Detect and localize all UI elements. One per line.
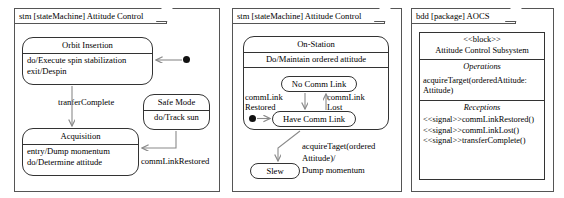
receptions-label: Receptions: [420, 103, 544, 114]
operation-item-cont: Attitude): [420, 86, 544, 97]
state-no-comm-link-name: No Comm Link: [292, 79, 346, 90]
frame-header-stm-right: stm [stateMachine] Attitude Control: [233, 9, 385, 24]
state-orbit-insertion-exit: exit/Despin: [27, 66, 148, 77]
state-safe-mode[interactable]: Safe Mode do/Track sun: [143, 94, 210, 130]
block-name: Attitude Control Subsystem: [420, 46, 544, 57]
operations-label: Operations: [420, 62, 544, 73]
frame-header-bdd: bdd [package] AOCS: [412, 9, 516, 24]
block-name-compartment: <<block>> Attitude Control Subsystem: [420, 33, 544, 60]
block-receptions-compartment: Receptions <<signal>>commLinkRestored() …: [420, 101, 544, 150]
state-orbit-insertion-do: do/Execute spin stabilization: [27, 55, 148, 66]
initial-node-left: [183, 56, 190, 63]
transition-label-comm-link-lost-2: Lost: [327, 102, 342, 113]
transition-label-acquire-target-2: Attitude)/: [302, 153, 335, 164]
state-orbit-insertion[interactable]: Orbit Insertion do/Execute spin stabiliz…: [22, 37, 153, 85]
block-operations-compartment: Operations acquireTarget(orderedAttitude…: [420, 60, 544, 101]
reception-item: <<signal>>commLinkRestored(): [420, 115, 544, 126]
state-acquisition-entry: entry/Dump momentum: [27, 146, 134, 157]
block-stereotype: <<block>>: [420, 35, 544, 46]
reception-item: <<signal>>commLinkLost(): [420, 126, 544, 137]
transition-label-comm-link-restored-1: commLink: [245, 92, 283, 103]
transition-label-transfer-complete: tranferComplete: [58, 97, 114, 108]
reception-item: <<signal>>transferComplete(): [420, 136, 544, 147]
state-acquisition-do: do/Determine attitude: [27, 157, 134, 168]
frame-header-stm-left: stm [stateMachine] Attitude Control: [15, 9, 167, 24]
state-safe-mode-body: do/Track sun: [144, 111, 209, 125]
state-have-comm-link-name: Have Comm Link: [283, 114, 345, 125]
transition-label-acquire-target-1: acquireTaget(ordered: [302, 141, 375, 152]
state-acquisition[interactable]: Acquisition entry/Dump momentum do/Deter…: [22, 128, 139, 176]
state-have-comm-link[interactable]: Have Comm Link: [272, 111, 356, 127]
transition-label-comm-link-lost-1: commLink: [327, 92, 365, 103]
state-acquisition-name: Acquisition: [23, 129, 138, 145]
diagram-canvas: stm [stateMachine] Attitude Control Orbi…: [0, 0, 564, 198]
operation-item: acquireTarget(orderedAttitude:: [420, 76, 544, 87]
frame-header-label-right: stm [stateMachine] Attitude Control: [237, 11, 361, 21]
initial-node-right: [249, 115, 256, 122]
state-on-station-name: On-Station: [244, 37, 388, 53]
state-on-station-do: Do/Maintain ordered attitude: [244, 53, 388, 68]
state-slew-name: Slew: [266, 166, 283, 177]
frame-header-label-bdd: bdd [package] AOCS: [416, 11, 490, 21]
frame-header-label: stm [stateMachine] Attitude Control: [19, 11, 143, 21]
state-orbit-insertion-name: Orbit Insertion: [23, 38, 152, 54]
transition-label-acquire-target-3: Dump momentum: [302, 165, 365, 176]
state-acquisition-body: entry/Dump momentum do/Determine attitud…: [23, 145, 138, 170]
state-no-comm-link[interactable]: No Comm Link: [281, 76, 357, 92]
transition-label-comm-link-restored-left: commLinkRestored: [141, 156, 209, 167]
state-slew[interactable]: Slew: [250, 163, 300, 179]
block-attitude-control-subsystem[interactable]: <<block>> Attitude Control Subsystem Ope…: [419, 32, 545, 180]
state-safe-mode-name: Safe Mode: [144, 95, 209, 111]
transition-label-comm-link-restored-2: Restored: [245, 102, 276, 113]
state-orbit-insertion-body: do/Execute spin stabilization exit/Despi…: [23, 54, 152, 79]
